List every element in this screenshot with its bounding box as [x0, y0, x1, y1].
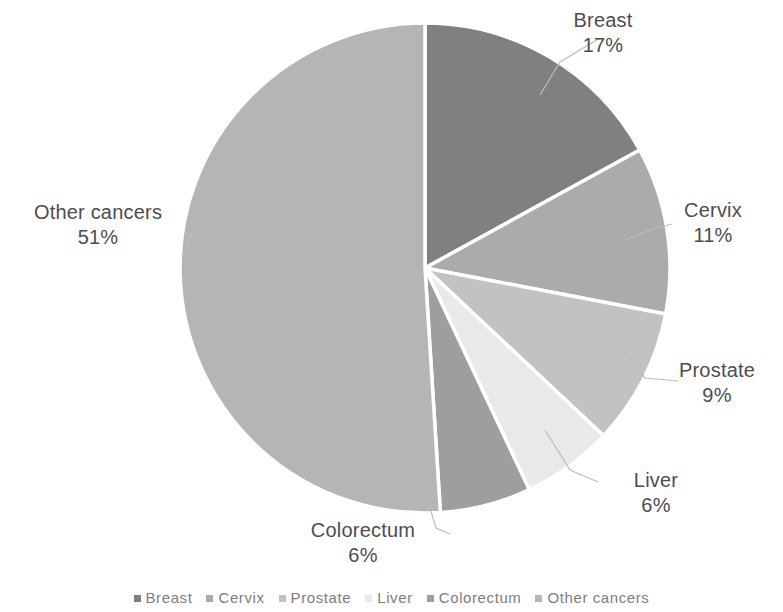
- legend-swatch-icon: [427, 595, 434, 602]
- slice-label-colorectum: Colorectum 6%: [272, 518, 454, 568]
- slice-label-breast-name: Breast: [528, 8, 678, 33]
- legend-swatch-icon: [134, 595, 141, 602]
- slice-label-breast: Breast 17%: [528, 8, 678, 58]
- legend-item-breast[interactable]: Breast: [134, 589, 193, 606]
- pie-slice-other-cancers[interactable]: [180, 23, 440, 513]
- slice-label-other-cancers-value: 51%: [2, 225, 194, 250]
- legend-item-prostate[interactable]: Prostate: [279, 589, 352, 606]
- legend-item-liver[interactable]: Liver: [365, 589, 413, 606]
- slice-label-cervix: Cervix 11%: [648, 198, 778, 248]
- slice-label-liver: Liver 6%: [600, 468, 712, 518]
- slice-label-prostate-name: Prostate: [652, 358, 782, 383]
- legend-item-label: Cervix: [218, 589, 264, 606]
- pie-chart: Breast 17% Cervix 11% Prostate 9% Liver …: [0, 0, 783, 612]
- pie-slice-group: [180, 23, 670, 513]
- slice-label-prostate-value: 9%: [652, 383, 782, 408]
- legend-item-colorectum[interactable]: Colorectum: [427, 589, 522, 606]
- legend-item-label: Other cancers: [547, 589, 649, 606]
- slice-label-breast-value: 17%: [528, 33, 678, 58]
- legend-item-cervix[interactable]: Cervix: [206, 589, 264, 606]
- slice-label-prostate: Prostate 9%: [652, 358, 782, 408]
- legend-item-label: Liver: [377, 589, 413, 606]
- slice-label-colorectum-value: 6%: [272, 543, 454, 568]
- legend-item-other-cancers[interactable]: Other cancers: [535, 589, 649, 606]
- legend-item-label: Colorectum: [439, 589, 522, 606]
- slice-label-other-cancers: Other cancers 51%: [2, 200, 194, 250]
- legend-swatch-icon: [279, 595, 286, 602]
- slice-label-cervix-name: Cervix: [648, 198, 778, 223]
- legend-swatch-icon: [535, 595, 542, 602]
- slice-label-other-cancers-name: Other cancers: [2, 200, 194, 225]
- slice-label-liver-name: Liver: [600, 468, 712, 493]
- legend-item-label: Breast: [146, 589, 193, 606]
- legend-swatch-icon: [206, 595, 213, 602]
- chart-legend: BreastCervixProstateLiverColorectumOther…: [0, 583, 783, 612]
- legend-item-label: Prostate: [291, 589, 352, 606]
- slice-label-colorectum-name: Colorectum: [272, 518, 454, 543]
- legend-swatch-icon: [365, 595, 372, 602]
- slice-label-cervix-value: 11%: [648, 223, 778, 248]
- slice-label-liver-value: 6%: [600, 493, 712, 518]
